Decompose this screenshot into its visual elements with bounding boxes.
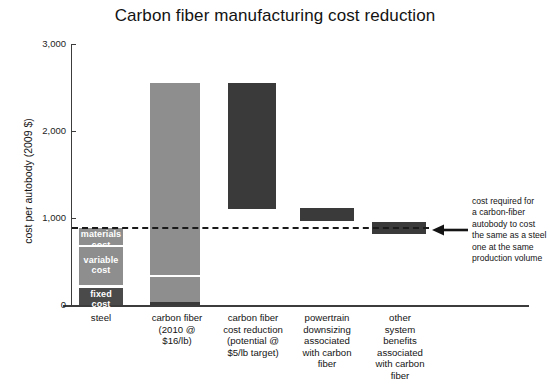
y-tick-label-3000-wrap: 3,000 xyxy=(14,44,66,45)
y-tick-2000 xyxy=(71,131,76,132)
category-label-carbon-fiber-2010: carbon fiber (2010 @ $16/lb) xyxy=(139,312,215,347)
bar-carbon-fiber-2010-segment-upper xyxy=(150,83,200,275)
category-label-other-system-benefits: other system benefits associated with ca… xyxy=(363,312,437,382)
bar-carbon-fiber-2010-segment-base xyxy=(150,302,200,305)
annotation-arrow-icon xyxy=(432,222,468,234)
segment-label-variable-cost: variable cost xyxy=(79,255,123,276)
segment-label-fixed-cost: fixed cost xyxy=(79,289,123,310)
bar-carbon-fiber-2010[interactable] xyxy=(150,83,200,305)
chart-title: Carbon fiber manufacturing cost reductio… xyxy=(0,6,550,26)
bar-steel-segment-fixed-cost: fixed cost xyxy=(79,288,123,306)
x-axis-line xyxy=(63,305,529,307)
y-tick-label-3000: 3,000 xyxy=(18,38,66,49)
y-axis-line xyxy=(71,44,72,306)
y-axis-title: cost per autobody (2009 $) xyxy=(22,81,34,281)
category-label-steel: steel xyxy=(63,312,139,324)
bar-carbon-fiber-cost-reduction[interactable] xyxy=(228,83,276,209)
reference-line-dashed xyxy=(72,227,429,229)
y-tick-3000 xyxy=(71,44,76,45)
category-label-powertrain-downsizing: powertrain downsizing associated with ca… xyxy=(290,312,364,370)
y-tick-label-2000-wrap: 2,000 xyxy=(14,131,66,132)
bar-steel[interactable]: materials cost variable cost fixed cost xyxy=(79,228,123,305)
bar-carbon-fiber-2010-segment-lower xyxy=(150,277,200,302)
y-tick-label-0-wrap: 0 xyxy=(14,305,66,306)
y-tick-label-2000: 2,000 xyxy=(18,125,66,136)
bar-powertrain-downsizing[interactable] xyxy=(300,208,354,221)
y-tick-label-1000-wrap: 1,000 xyxy=(14,218,66,219)
y-tick-label-0: 0 xyxy=(18,299,66,310)
bar-steel-segment-materials-cost: materials cost xyxy=(79,228,123,245)
bar-steel-segment-variable-cost: variable cost xyxy=(79,247,123,285)
chart-figure: Carbon fiber manufacturing cost reductio… xyxy=(0,0,550,385)
y-tick-1000 xyxy=(71,218,76,219)
category-label-carbon-fiber-cost-reduction: carbon fiber cost reduction (potential @… xyxy=(214,312,292,358)
y-tick-label-1000: 1,000 xyxy=(18,212,66,223)
reference-line-annotation: cost required for a carbon-fiber autobod… xyxy=(472,196,550,264)
